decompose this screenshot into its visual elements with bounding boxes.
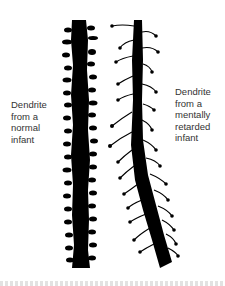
retarded-dendrite-icon <box>108 20 180 268</box>
normal-dendrite-icon <box>62 20 98 268</box>
clipped-caption <box>0 281 225 286</box>
dendrite-drawing <box>0 0 225 286</box>
